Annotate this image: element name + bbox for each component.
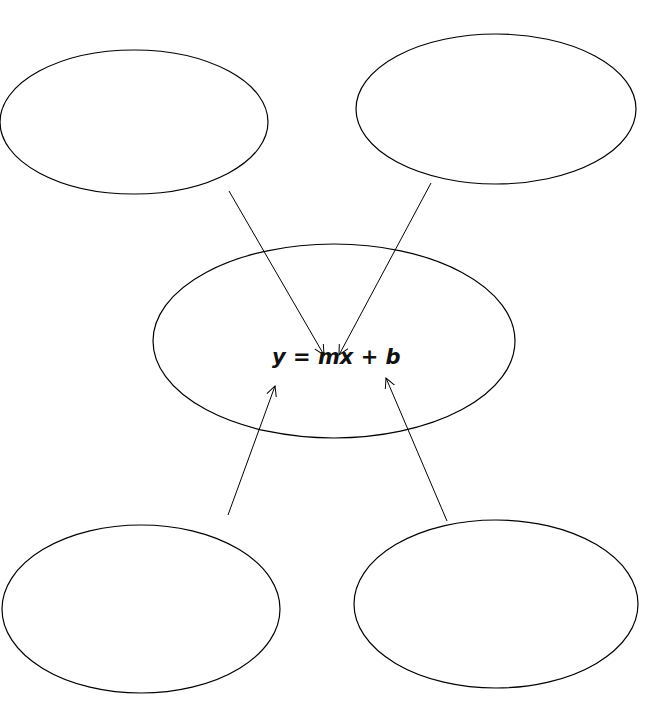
center-equation: y = mx + b <box>272 345 401 369</box>
bottom-right-ellipse <box>354 520 638 688</box>
arrow-top-left <box>229 191 324 355</box>
arrow-top-right <box>339 183 431 355</box>
top-right-ellipse <box>356 34 636 184</box>
top-left-ellipse <box>0 50 268 194</box>
bottom-left-ellipse <box>2 525 280 693</box>
center-ellipse <box>153 244 515 438</box>
arrow-bottom-right <box>386 378 447 521</box>
arrow-bottom-left <box>228 386 275 515</box>
